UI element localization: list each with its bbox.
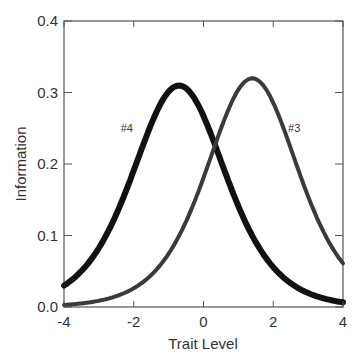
plot-border bbox=[64, 21, 343, 307]
y-tick-label: 0.0 bbox=[37, 298, 58, 315]
curves bbox=[64, 78, 343, 305]
x-axis-title: Trait Level bbox=[168, 335, 237, 352]
information-chart: -4-2024 0.00.10.20.30.4 Trait Level Info… bbox=[0, 0, 362, 361]
x-tick-label: -2 bbox=[127, 313, 140, 330]
x-tick-label: 0 bbox=[199, 313, 207, 330]
x-tick-label: -4 bbox=[57, 313, 70, 330]
x-tick-label: 2 bbox=[269, 313, 277, 330]
y-tick-label: 0.3 bbox=[37, 84, 58, 101]
plot-frame bbox=[64, 21, 343, 307]
curve-label-item-4: #4 bbox=[121, 122, 133, 134]
y-tick-label: 0.2 bbox=[37, 155, 58, 172]
y-tick-label: 0.4 bbox=[37, 12, 58, 29]
y-axis-title: Information bbox=[12, 126, 29, 201]
y-tick-label: 0.1 bbox=[37, 227, 58, 244]
curve-item-4 bbox=[64, 86, 343, 303]
curve-label-item-3: #3 bbox=[288, 122, 300, 134]
x-tick-label: 4 bbox=[339, 313, 347, 330]
